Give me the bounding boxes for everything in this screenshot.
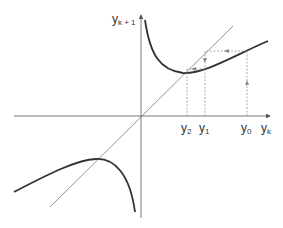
- x-axis-label: yk: [261, 122, 271, 136]
- point-label-y1: y1: [199, 122, 209, 136]
- arrow-up-icon: [245, 80, 249, 85]
- cobweb-path: [187, 51, 247, 116]
- y-axis-label: yk + 1: [112, 13, 136, 27]
- diagonal-line: [50, 26, 233, 207]
- cobweb-diagram: yk + 1 y2 y1 y0 yk: [0, 0, 283, 228]
- arrow-left-icon: [191, 67, 196, 71]
- point-label-y0: y0: [241, 122, 251, 136]
- diagram-canvas: [0, 0, 283, 228]
- curve-lower-branch: [14, 159, 135, 212]
- arrow-down-icon: [203, 58, 207, 63]
- curve-upper-branch: [145, 20, 268, 73]
- arrow-left-icon: [224, 49, 229, 53]
- point-label-y2: y2: [181, 122, 191, 136]
